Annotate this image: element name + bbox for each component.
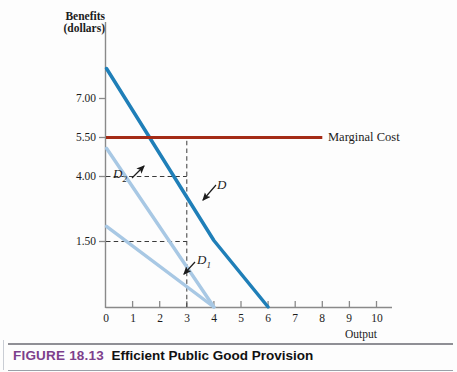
x-tick-label-1: 1 [125,312,141,324]
x-axis-title: Output [345,328,377,340]
y-tick-label-700: 7.00 [62,92,96,104]
y-tick-label-550: 5.50 [62,131,96,143]
figure-number: FIGURE 18.13 [13,348,104,363]
curve-label-demand-2: D2 [113,166,127,184]
figure-caption: FIGURE 18.13 Efficient Public Good Provi… [13,348,313,363]
caption-bottom-rule [8,370,453,371]
curve-label-demand-1-sub: 1 [206,260,211,270]
curve-label-demand-total: D [217,177,226,193]
x-tick-label-9: 9 [341,312,357,324]
curve-label-demand-1-text: D [197,252,206,267]
x-tick-label-0: 0 [98,312,114,324]
chart-plot-area: Benefits (dollars) 7.00 5.50 4.00 1.50 0… [0,0,457,340]
x-tick-label-5: 5 [233,312,249,324]
x-tick-label-3: 3 [179,312,195,324]
x-tick-label-6: 6 [260,312,276,324]
x-tick-label-7: 7 [287,312,303,324]
legend-label-marginal-cost: Marginal Cost [328,130,400,145]
curve-label-demand-2-text: D [113,166,122,181]
figure-container: Benefits (dollars) 7.00 5.50 4.00 1.50 0… [0,0,457,372]
curve-label-demand-2-sub: 2 [122,174,127,184]
x-tick-label-2: 2 [152,312,168,324]
y-tick-label-400: 4.00 [62,170,96,182]
y-tick-label-150: 1.50 [62,235,96,247]
y-axis-title: Benefits (dollars) [57,10,105,34]
figure-title: Efficient Public Good Provision [111,348,313,363]
caption-top-rule [8,343,453,345]
x-tick-label-10: 10 [368,312,386,324]
curve-label-demand-total-text: D [217,177,226,192]
figure-caption-bar: FIGURE 18.13 Efficient Public Good Provi… [4,343,453,372]
y-axis-title-line2: (dollars) [57,22,105,34]
x-tick-label-8: 8 [314,312,330,324]
y-axis-title-line1: Benefits [57,10,105,22]
x-tick-label-4: 4 [206,312,222,324]
curve-label-demand-1: D1 [197,252,211,270]
